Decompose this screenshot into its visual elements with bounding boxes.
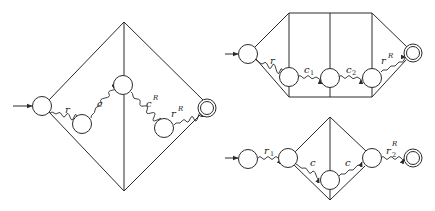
label-c2-sub: 2 (352, 69, 356, 77)
label-c: c (97, 98, 103, 109)
frame-edge (49, 22, 124, 100)
label-c-left: c (310, 157, 316, 168)
state-q1 (73, 115, 92, 134)
state-start (239, 45, 258, 64)
label-cR-sup: R (152, 94, 159, 102)
state-q1 (279, 149, 298, 168)
label-r2R-sub: 2 (392, 151, 396, 159)
left-diamond-diagram: r c c R r R (13, 22, 216, 191)
label-c-right: c (345, 157, 351, 168)
state-accept-inner (201, 102, 214, 115)
label-cR: c (146, 98, 152, 109)
transition-c2 (339, 76, 361, 80)
state-accept-inner (407, 47, 420, 60)
state-q1 (280, 68, 299, 87)
state-q3 (155, 119, 174, 138)
transition-c (91, 85, 117, 118)
label-r: r (270, 55, 276, 66)
label-r1-sub: 1 (270, 150, 274, 158)
label-rR: r (381, 55, 387, 66)
state-q2 (114, 76, 133, 95)
state-start (239, 150, 258, 169)
label-c1-sub: 1 (310, 69, 314, 77)
label-rR-sup: R (387, 52, 394, 60)
state-q2 (321, 171, 340, 190)
state-q3 (363, 69, 382, 88)
frame-edge (330, 117, 366, 151)
frame-edge (255, 13, 289, 47)
state-accept-inner (407, 152, 420, 165)
state-start (33, 97, 52, 116)
transition-rR (174, 112, 203, 125)
label-rR-sup: R (177, 105, 184, 113)
automata-figure: r c c R r R r c 1 c 2 (0, 0, 435, 211)
state-q3 (363, 149, 382, 168)
transition-c1 (298, 76, 320, 80)
bottom-right-diamond-diagram: r 1 c c r 2 R (225, 117, 422, 200)
state-q2 (321, 69, 340, 88)
label-r2R-sup: R (391, 140, 398, 148)
frame-edge (295, 117, 330, 152)
top-right-hexagon-diagram: r c 1 c 2 r R (225, 13, 422, 97)
label-r: r (65, 104, 71, 115)
frame-edge (372, 13, 407, 47)
frame-edge (124, 22, 203, 100)
label-rR: r (171, 108, 177, 119)
